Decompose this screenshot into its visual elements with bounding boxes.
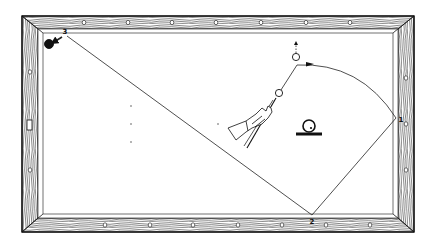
diamond-marker xyxy=(259,20,263,24)
symbol-base xyxy=(296,133,322,136)
billiards-diagram: 123 xyxy=(0,0,434,244)
table-illustration: 123 xyxy=(0,0,434,244)
object-ball xyxy=(292,53,299,60)
aim-dot xyxy=(130,123,131,124)
side-notch xyxy=(27,120,32,130)
final-position-ball xyxy=(45,40,54,49)
diamond-marker xyxy=(368,223,372,227)
left-cushion xyxy=(38,29,43,218)
diamond-marker xyxy=(148,223,152,227)
diamond-marker xyxy=(170,20,174,24)
diamond-marker xyxy=(28,168,32,172)
english-dot xyxy=(310,127,312,129)
diamond-marker xyxy=(404,122,408,126)
diamond-marker xyxy=(126,20,130,24)
diamond-marker xyxy=(404,168,408,172)
diamond-marker xyxy=(191,223,195,227)
diamond-marker xyxy=(103,223,107,227)
cushion-label-1: 1 xyxy=(399,116,404,124)
diamond-marker xyxy=(82,20,86,24)
diamond-marker xyxy=(214,20,218,24)
diamond-marker xyxy=(304,20,308,24)
diamond-marker xyxy=(280,223,284,227)
aim-dot xyxy=(130,141,131,142)
aim-dot xyxy=(130,105,131,106)
bottom-rail xyxy=(22,218,414,232)
diamond-marker xyxy=(28,70,32,74)
cushion-label-3: 3 xyxy=(63,28,68,36)
top-cushion xyxy=(38,29,398,33)
symbol-ball xyxy=(303,120,315,132)
diamond-marker xyxy=(348,20,352,24)
diamond-marker xyxy=(324,223,328,227)
right-cushion xyxy=(393,29,398,218)
aim-dot xyxy=(217,123,218,124)
diamond-marker xyxy=(404,76,408,80)
cue-ball xyxy=(275,89,282,96)
bottom-cushion xyxy=(38,214,398,218)
cushion-label-2: 2 xyxy=(310,218,315,226)
diamond-marker xyxy=(236,223,240,227)
